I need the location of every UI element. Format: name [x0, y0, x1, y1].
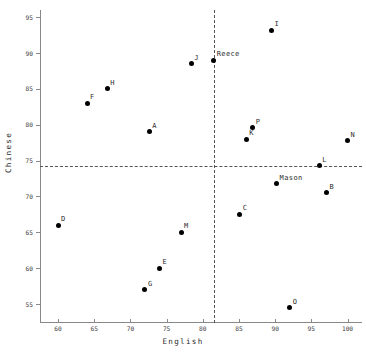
data-point-label: N — [351, 131, 356, 139]
x-tick-label: 100 — [338, 325, 358, 332]
y-tick-label: 75 — [15, 157, 33, 164]
x-tick-label: 95 — [301, 325, 321, 332]
y-tick-mark — [36, 232, 40, 233]
data-point-label: E — [162, 258, 167, 266]
data-point-label: G — [148, 280, 153, 288]
x-tick-mark — [311, 319, 312, 323]
x-tick-mark — [94, 319, 95, 323]
x-tick-label: 85 — [229, 325, 249, 332]
x-tick-mark — [203, 319, 204, 323]
data-point[interactable] — [250, 125, 255, 130]
x-tick-mark — [58, 319, 59, 323]
x-tick-mark — [348, 319, 349, 323]
horizontal-reference-line — [40, 166, 362, 167]
data-point[interactable] — [287, 305, 292, 310]
y-tick-label: 70 — [15, 193, 33, 200]
data-point-label: P — [256, 118, 261, 126]
y-tick-label: 60 — [15, 265, 33, 272]
y-axis-line — [40, 10, 41, 323]
scatter-plot: 556065707580859095 6065707580859095100 D… — [0, 0, 366, 355]
x-tick-label: 90 — [265, 325, 285, 332]
y-tick-label: 90 — [15, 50, 33, 57]
x-tick-mark — [275, 319, 276, 323]
data-point-label: Mason — [280, 174, 303, 182]
data-point-label: L — [322, 156, 327, 164]
x-tick-label: 80 — [193, 325, 213, 332]
y-tick-mark — [36, 304, 40, 305]
data-point[interactable] — [142, 287, 147, 292]
x-tick-label: 75 — [157, 325, 177, 332]
y-tick-mark — [36, 268, 40, 269]
x-tick-mark — [167, 319, 168, 323]
y-tick-mark — [36, 53, 40, 54]
data-point[interactable] — [179, 230, 184, 235]
y-tick-label: 95 — [15, 14, 33, 21]
y-tick-mark — [36, 196, 40, 197]
x-tick-mark — [130, 319, 131, 323]
y-tick-label: 85 — [15, 85, 33, 92]
data-point-label: O — [293, 298, 298, 306]
data-point-label: H — [110, 79, 115, 87]
x-axis-title: English — [0, 337, 366, 346]
y-tick-mark — [36, 125, 40, 126]
data-point[interactable] — [237, 212, 242, 217]
data-point[interactable] — [189, 61, 194, 66]
data-point-label: F — [90, 93, 95, 101]
data-point-label: M — [184, 222, 189, 230]
y-axis-title: Chinese — [4, 123, 13, 183]
vertical-reference-line — [214, 10, 215, 323]
x-tick-label: 70 — [120, 325, 140, 332]
x-tick-mark — [239, 319, 240, 323]
data-point[interactable] — [269, 28, 274, 33]
data-point[interactable] — [345, 138, 350, 143]
data-point[interactable] — [147, 129, 152, 134]
y-tick-label: 55 — [15, 301, 33, 308]
data-point-label: J — [194, 54, 199, 62]
data-point[interactable] — [274, 181, 279, 186]
y-tick-label: 80 — [15, 121, 33, 128]
y-tick-mark — [36, 89, 40, 90]
data-point[interactable] — [324, 190, 329, 195]
data-point[interactable] — [105, 86, 110, 91]
x-tick-label: 65 — [84, 325, 104, 332]
y-tick-mark — [36, 161, 40, 162]
data-point-label: D — [61, 215, 66, 223]
data-point-label: B — [330, 183, 335, 191]
data-point[interactable] — [317, 163, 322, 168]
data-point-label: I — [275, 20, 280, 28]
data-point[interactable] — [211, 58, 216, 63]
data-point[interactable] — [56, 223, 61, 228]
data-point-label: Reece — [217, 50, 240, 58]
data-point-label: A — [152, 122, 157, 130]
data-point[interactable] — [85, 101, 90, 106]
data-point-label: C — [243, 204, 248, 212]
data-point[interactable] — [244, 137, 249, 142]
data-point-label: K — [249, 129, 254, 137]
data-point[interactable] — [157, 266, 162, 271]
x-axis-line — [40, 322, 362, 323]
x-tick-label: 60 — [48, 325, 68, 332]
y-tick-label: 65 — [15, 229, 33, 236]
y-tick-mark — [36, 17, 40, 18]
